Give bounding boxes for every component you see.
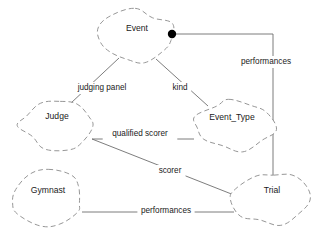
- entity-event_type[interactable]: Event_Type: [194, 99, 277, 152]
- edge-label-group-judging-panel: judging panel: [71, 82, 133, 94]
- entities-layer: EventJudgeEvent_TypeGymnastTrial: [13, 8, 311, 227]
- entity-outline-trial: [230, 174, 310, 225]
- entity-label-gymnast: Gymnast: [31, 185, 66, 195]
- entity-outline-event: [97, 8, 174, 63]
- edge-label-performances-gymnast-trial: performances: [141, 206, 191, 215]
- edge-label-kind: kind: [172, 83, 187, 92]
- entity-label-judge: Judge: [45, 111, 69, 121]
- edge-label-scorer: scorer: [159, 166, 182, 175]
- entity-outline-gymnast: [13, 169, 80, 226]
- entity-label-event_type: Event_Type: [209, 112, 255, 122]
- entity-event[interactable]: Event: [97, 8, 174, 63]
- entity-trial[interactable]: Trial: [230, 174, 310, 225]
- entity-label-trial: Trial: [264, 185, 280, 195]
- entity-gymnast[interactable]: Gymnast: [13, 169, 80, 226]
- edge-label-group-qualified-scorer: qualified scorer: [103, 128, 178, 140]
- edge-label-group-performances-gymnast-trial: performances: [137, 205, 194, 217]
- edge-label-group-performances-event-trial: performances: [237, 56, 294, 68]
- entity-relationship-diagram: EventJudgeEvent_TypeGymnastTrial judging…: [0, 0, 322, 249]
- edge-label-group-scorer: scorer: [154, 165, 185, 177]
- entity-label-event: Event: [126, 23, 149, 33]
- entity-outline-event_type: [194, 99, 277, 152]
- entity-judge[interactable]: Judge: [17, 101, 93, 151]
- edge-label-qualified-scorer: qualified scorer: [112, 129, 168, 138]
- edge-label-group-kind: kind: [169, 82, 191, 94]
- junction-dot-group: [168, 30, 176, 38]
- entity-outline-judge: [17, 101, 93, 151]
- diagram-canvas: EventJudgeEvent_TypeGymnastTrial judging…: [0, 0, 322, 249]
- edge-label-performances-event-trial: performances: [241, 57, 291, 66]
- edge-line-judging-panel: [71, 58, 119, 103]
- edge-judging-panel: [71, 58, 119, 103]
- event-performances-junction-icon: [168, 30, 176, 38]
- edge-label-judging-panel: judging panel: [77, 83, 127, 92]
